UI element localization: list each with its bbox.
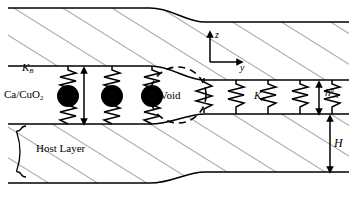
label-total-height: H	[334, 137, 343, 149]
label-axis-y: y	[240, 63, 244, 73]
label-spring-constant-a: KA	[254, 90, 266, 103]
spring-void-edge	[196, 78, 212, 113]
label-axis-z: z	[215, 30, 219, 40]
figure-container: KB Ca/CuO2 h0B Void KA h0A Host Layer H …	[0, 0, 349, 197]
spring-a-1	[228, 80, 244, 114]
springs-region-a	[228, 80, 340, 114]
spring-a-3	[292, 80, 308, 114]
label-spring-constant-b: KB	[22, 62, 34, 75]
spring-b-2-lower	[104, 105, 120, 124]
label-height-a: h0A	[325, 87, 338, 100]
upper-host-layer	[0, 0, 349, 90]
spring-b-2-upper	[104, 66, 120, 88]
spring-b-1-upper	[60, 66, 76, 88]
spring-b-1-lower	[60, 105, 76, 124]
label-material-ca-cuo2: Ca/CuO2	[4, 89, 43, 102]
atom-2	[101, 85, 123, 107]
label-void: Void	[160, 90, 181, 101]
label-height-b: h0B	[63, 89, 77, 103]
label-host-layer: Host Layer	[36, 143, 85, 154]
